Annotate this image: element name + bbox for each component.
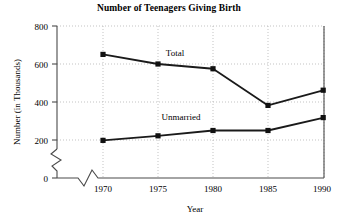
y-tick-label: 0 [44, 174, 49, 184]
y-axis-title: Number (in Thousands) [12, 59, 22, 145]
x-axis [57, 26, 324, 186]
series-line-total [103, 54, 324, 105]
chart-container: Number of Teenagers Giving Birth [0, 0, 338, 223]
series-label-unmarried: Unmarried [162, 112, 201, 122]
x-tick-label: 1985 [259, 184, 278, 194]
x-tick-labels: 1970 1975 1980 1985 1990 [94, 184, 332, 194]
x-axis-title: Year [187, 204, 204, 214]
x-tick-label: 1990 [313, 184, 332, 194]
y-tick-label: 800 [35, 22, 49, 32]
y-tick-label: 600 [35, 60, 49, 70]
y-tick-label: 200 [35, 136, 49, 146]
y-axis [51, 26, 61, 178]
line-chart-plot: 800 600 400 200 0 1970 1975 1980 1985 19… [0, 0, 338, 223]
y-gridlines [57, 26, 324, 140]
y-tick-labels: 800 600 400 200 0 [35, 22, 49, 184]
x-tick-label: 1970 [94, 184, 113, 194]
x-tick-label: 1975 [149, 184, 168, 194]
y-tick-label: 400 [35, 98, 49, 108]
series-label-total: Total [166, 48, 185, 58]
x-tick-label: 1980 [204, 184, 223, 194]
